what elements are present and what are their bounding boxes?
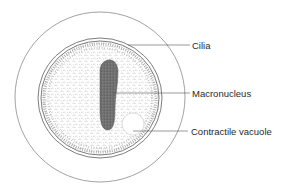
label-contractile-vacuole: Contractile vacuole [191, 127, 272, 137]
contractile-vacuole-shape [122, 113, 144, 135]
label-macronucleus: Macronucleus [192, 89, 251, 99]
label-cilia: Cilia [192, 41, 210, 51]
